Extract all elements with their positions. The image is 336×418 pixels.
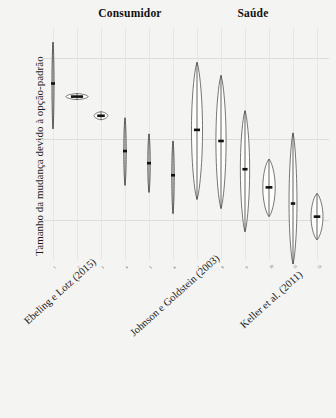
x-tick-3: 3 bbox=[100, 265, 105, 270]
x-tick-6: 6 bbox=[172, 265, 177, 270]
plot-panel: 80%40%0% 123456789101112 bbox=[41, 28, 329, 260]
x-tick-9: 9 bbox=[244, 265, 249, 270]
x-tick-12: 12 bbox=[316, 263, 322, 269]
facet-header-saude: Saúde bbox=[198, 7, 308, 19]
violin-median-12 bbox=[314, 215, 321, 218]
x-tick-10: 10 bbox=[268, 263, 274, 269]
x-tick-4: 4 bbox=[124, 265, 129, 270]
facet-header-consumidor: Consumidor bbox=[60, 7, 200, 19]
violin-chart: Consumidor Saúde Tamanho da mudança devi… bbox=[0, 0, 336, 418]
study-label-keller: Keller et al. (2011) bbox=[238, 269, 304, 330]
x-tick-8: 8 bbox=[220, 265, 225, 270]
x-tick-5: 5 bbox=[148, 265, 153, 270]
x-tick-1: 1 bbox=[52, 265, 57, 270]
